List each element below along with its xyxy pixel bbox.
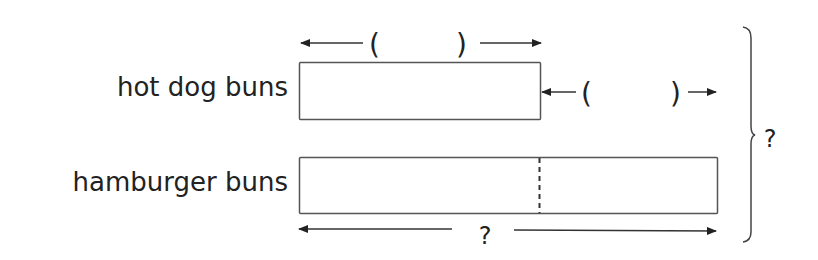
grand-total-question: ?: [764, 125, 777, 153]
total-curly-brace: [743, 27, 755, 242]
bottom-right-arrow: [514, 230, 716, 231]
hot-dog-bar: [300, 63, 541, 120]
hamburger-bar: [300, 158, 718, 214]
bottom-total-question: ?: [479, 222, 492, 250]
top-open-paren: (: [369, 28, 380, 61]
tape-diagram: ( ) ( ) ? ?: [0, 0, 818, 260]
top-close-paren: ): [456, 28, 467, 61]
difference-close-paren: ): [670, 77, 681, 110]
difference-open-paren: (: [581, 77, 592, 110]
